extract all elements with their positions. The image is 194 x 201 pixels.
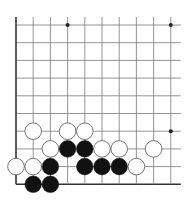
black-stone	[77, 158, 94, 175]
white-stone	[42, 141, 59, 158]
go-board	[0, 0, 194, 201]
white-stone	[111, 141, 128, 158]
black-stone	[42, 158, 59, 175]
black-stone	[94, 158, 111, 175]
white-stone	[59, 123, 76, 140]
white-stone	[145, 141, 162, 158]
star-point	[169, 129, 173, 133]
white-stone	[94, 141, 111, 158]
black-stone	[59, 141, 76, 158]
star-point	[169, 23, 173, 27]
star-point	[66, 23, 70, 27]
white-stone	[25, 158, 42, 175]
white-stone	[77, 123, 94, 140]
black-stone	[77, 141, 94, 158]
black-stone	[111, 158, 128, 175]
white-stone	[128, 158, 145, 175]
black-stone	[42, 176, 59, 193]
black-stone	[25, 176, 42, 193]
white-stone	[25, 123, 42, 140]
white-stone	[8, 158, 25, 175]
